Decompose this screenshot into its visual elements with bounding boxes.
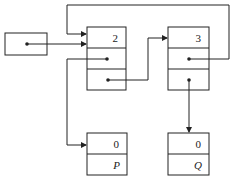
node-1-value: 2 <box>113 32 119 44</box>
node-p: 0 P <box>87 133 127 175</box>
node-2-value: 3 <box>196 32 202 44</box>
node-q-value: 0 <box>196 138 202 150</box>
node-q-name: Q <box>194 159 202 171</box>
node-p-value: 0 <box>114 138 120 150</box>
edge-node1-to-node2 <box>108 38 167 80</box>
node-q: 0 Q <box>168 133 209 175</box>
diagram-canvas: 2 3 0 P 0 Q <box>0 0 234 185</box>
node-p-name: P <box>112 159 120 171</box>
